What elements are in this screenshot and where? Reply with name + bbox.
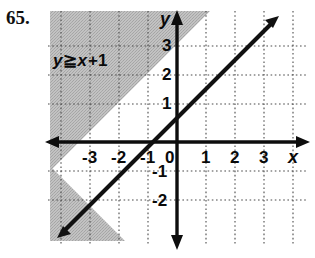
y-axis-bottom-arrow: [171, 235, 183, 250]
figure-root: 65.: [0, 0, 315, 258]
y-tick-label--2: -2: [152, 192, 167, 209]
y-tick-label-1: 1: [162, 95, 171, 112]
x-axis-name: x: [288, 148, 298, 166]
x-tick-label--2: -2: [111, 149, 126, 166]
x-axis-right-arrow: [296, 136, 310, 148]
x-tick-label-3: 3: [259, 149, 268, 166]
inequality-plus-sign: +: [88, 51, 98, 70]
y-tick-label-3: 3: [162, 37, 171, 54]
y-tick-label-2: 2: [162, 66, 171, 83]
inequality-rhs-variable: x: [77, 51, 87, 70]
x-tick-label-1: 1: [201, 149, 210, 166]
coordinate-graph: y≧x+1 -3 -2 -1 0 1 2 3 3 2 1 -1 -2 y x: [45, 6, 310, 254]
graph-canvas: [45, 6, 310, 254]
problem-number: 65.: [6, 8, 30, 28]
y-tick-label--1: -1: [152, 163, 167, 180]
x-tick-label-2: 2: [230, 149, 239, 166]
inequality-lhs: y: [53, 51, 63, 70]
inequality-constant: 1: [98, 51, 108, 70]
y-axis-name: y: [160, 10, 170, 28]
x-tick-label--3: -3: [82, 149, 97, 166]
inequality-label: y≧x+1: [53, 52, 108, 70]
inequality-operator: ≧: [63, 51, 77, 70]
